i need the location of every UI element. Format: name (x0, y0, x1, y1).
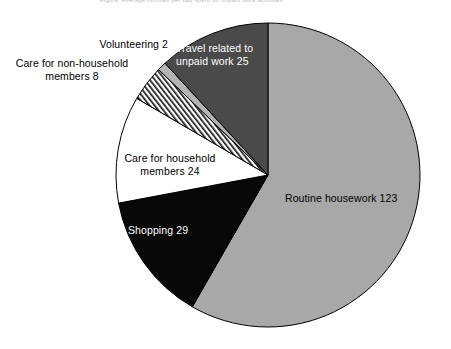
slice-label-travel-related-to-unpaid-work: Travel related to unpaid work 25 (176, 42, 286, 68)
slice-label-care-for-non-household-members: Care for non-household members 8 (2, 57, 142, 83)
slice-label-volunteering: Volunteering 2 (58, 38, 168, 51)
slice-label-shopping: Shopping 29 (128, 224, 228, 237)
slice-label-routine-housework: Routine housework 123 (285, 192, 435, 205)
slice-label-care-for-household-members: Care for household members 24 (108, 152, 232, 178)
pie-chart: Figure: Average minutes per day spent on… (0, 0, 451, 349)
